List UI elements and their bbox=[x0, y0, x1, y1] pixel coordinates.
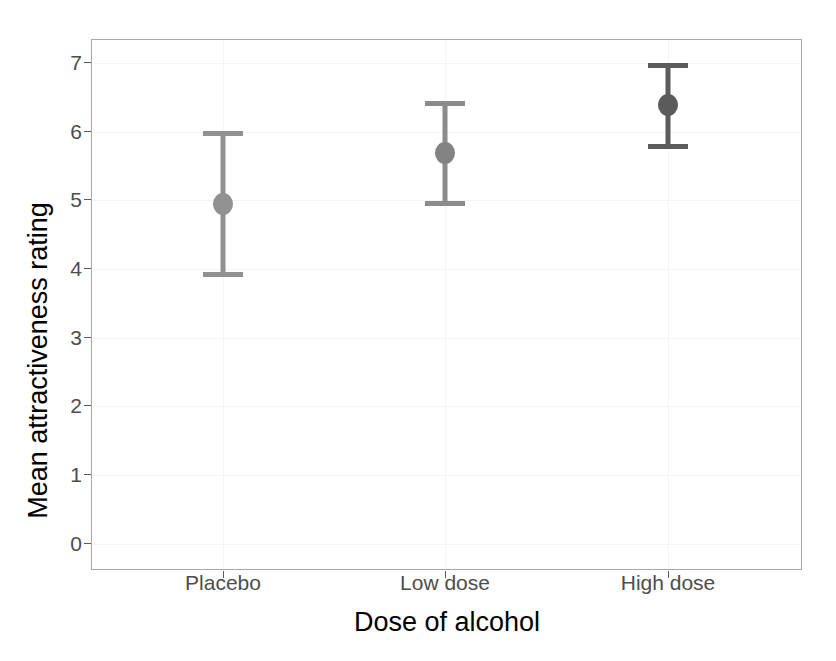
y-tick-mark-6 bbox=[84, 131, 91, 132]
gridline-y-1 bbox=[92, 475, 801, 476]
gridline-y-2 bbox=[92, 406, 801, 407]
y-tick-label-2: 2 bbox=[10, 395, 82, 416]
y-tick-mark-4 bbox=[84, 268, 91, 269]
x-tick-label-low-dose: Low dose bbox=[400, 572, 490, 593]
y-tick-mark-0 bbox=[84, 543, 91, 544]
plot-panel bbox=[91, 39, 802, 570]
y-tick-label-5: 5 bbox=[10, 189, 82, 210]
data-point-low-dose bbox=[435, 142, 455, 164]
y-tick-label-7: 7 bbox=[10, 52, 82, 73]
gridline-x-placebo bbox=[223, 40, 224, 569]
y-tick-label-1: 1 bbox=[10, 464, 82, 485]
errorbar-cap-lower-placebo bbox=[203, 272, 243, 277]
y-tick-mark-1 bbox=[84, 474, 91, 475]
data-point-placebo bbox=[213, 193, 233, 215]
x-tick-label-high-dose: High dose bbox=[621, 572, 716, 593]
errorbar-cap-lower-low-dose bbox=[425, 201, 465, 206]
gridline-y-7 bbox=[92, 63, 801, 64]
errorbar-cap-lower-high-dose bbox=[648, 144, 688, 149]
y-tick-label-3: 3 bbox=[10, 327, 82, 348]
errorbar-cap-upper-placebo bbox=[203, 131, 243, 136]
chart-figure: Mean attractiveness rating 7 6 5 4 3 2 1… bbox=[0, 0, 836, 661]
gridline-y-0 bbox=[92, 544, 801, 545]
data-point-high-dose bbox=[658, 94, 678, 116]
y-tick-label-6: 6 bbox=[10, 121, 82, 142]
gridline-y-4 bbox=[92, 269, 801, 270]
y-tick-mark-2 bbox=[84, 405, 91, 406]
y-tick-mark-5 bbox=[84, 199, 91, 200]
errorbar-cap-upper-high-dose bbox=[648, 63, 688, 68]
x-axis-title: Dose of alcohol bbox=[91, 607, 803, 638]
gridline-y-3 bbox=[92, 338, 801, 339]
y-tick-label-0: 0 bbox=[10, 533, 82, 554]
y-tick-label-4: 4 bbox=[10, 258, 82, 279]
y-tick-mark-7 bbox=[84, 62, 91, 63]
x-tick-label-placebo: Placebo bbox=[185, 572, 261, 593]
y-tick-mark-3 bbox=[84, 337, 91, 338]
errorbar-cap-upper-low-dose bbox=[425, 101, 465, 106]
y-axis-tick-labels: 7 6 5 4 3 2 1 0 bbox=[0, 0, 82, 661]
